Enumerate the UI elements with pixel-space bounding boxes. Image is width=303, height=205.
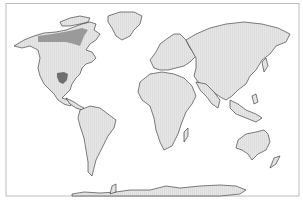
world-map <box>0 0 303 205</box>
map-canvas <box>0 0 303 205</box>
